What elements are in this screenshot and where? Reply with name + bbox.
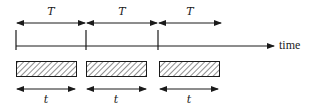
tick-marks (16, 30, 158, 50)
duration-label-2: t (114, 93, 119, 106)
pulses (17, 62, 220, 77)
duration-label-1: t (44, 93, 49, 106)
period-label-3: T (186, 5, 195, 18)
duration-label-3: t (187, 93, 192, 106)
period-label-2: T (118, 5, 127, 18)
pulse-box-1 (17, 62, 77, 77)
pulse-box-2 (87, 62, 147, 77)
time-axis-label: time (279, 38, 300, 52)
diagram-svg: T T T time t t t (0, 0, 312, 109)
period-label-1: T (47, 5, 56, 18)
pulse-box-3 (160, 62, 220, 77)
timing-diagram: T T T time t t t (0, 0, 312, 109)
